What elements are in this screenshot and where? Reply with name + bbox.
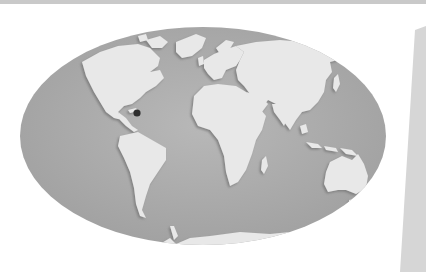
location-marker-dot [133, 109, 140, 116]
world-map [0, 0, 426, 272]
island-new-zealand [384, 168, 388, 178]
paper-sheet-edge [400, 26, 426, 272]
